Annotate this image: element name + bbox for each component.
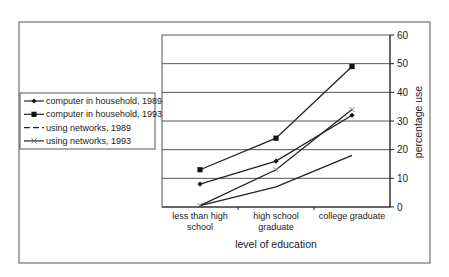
legend: computer in household, 1989computer in h… [20,93,162,149]
legend-label: computer in household, 1993 [46,109,162,119]
x-category-label: high schoolgraduate [253,211,299,232]
square-marker-icon [273,136,278,141]
chart: 0102030405060 less than highschoolhigh s… [0,0,449,277]
y-tick-label: 10 [397,173,409,184]
x-axis-title: level of education [235,238,317,250]
legend-label: using networks, 1993 [46,136,131,146]
y-tick-label: 0 [397,202,403,213]
y-tick-label: 30 [397,116,409,127]
square-marker-icon [197,167,202,172]
square-marker-icon [349,64,354,69]
y-tick-label: 40 [397,87,409,98]
y-tick-label: 60 [397,30,409,41]
plot-area [162,35,390,208]
legend-label: using networks, 1989 [46,123,131,133]
x-category-label: college graduate [319,211,386,221]
y-tick-label: 20 [397,144,409,155]
y-tick-label: 50 [397,58,409,69]
square-marker-icon [31,112,36,117]
legend-label: computer in household, 1989 [46,96,162,106]
y-axis-title: percentage use [412,86,424,159]
